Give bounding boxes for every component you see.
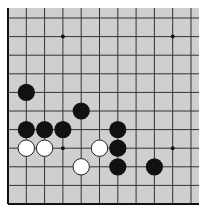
white-stone[interactable] [36, 140, 52, 156]
black-stone[interactable] [18, 84, 35, 101]
black-stone[interactable] [36, 121, 53, 138]
black-stone[interactable] [18, 121, 35, 138]
black-stone[interactable] [146, 158, 163, 175]
black-stone[interactable] [109, 121, 126, 138]
black-stone[interactable] [109, 158, 126, 175]
star-point-icon [61, 146, 65, 150]
star-point-icon [61, 35, 65, 39]
black-stone[interactable] [109, 140, 126, 157]
black-stone[interactable] [54, 121, 71, 138]
board-background [8, 8, 199, 204]
white-stone[interactable] [73, 159, 89, 175]
white-stone[interactable] [18, 140, 34, 156]
black-stone[interactable] [73, 102, 90, 119]
go-board[interactable] [0, 0, 207, 211]
white-stone[interactable] [91, 140, 107, 156]
star-point-icon [171, 146, 175, 150]
board-surface [8, 8, 199, 204]
star-point-icon [171, 35, 175, 39]
